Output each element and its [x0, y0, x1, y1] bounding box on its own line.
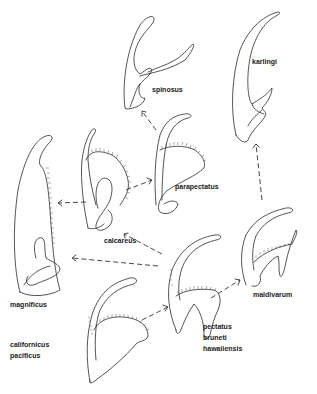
- label-maldivarum: maldivarum: [253, 289, 292, 300]
- label-parapectatus: parapectatus: [175, 181, 219, 192]
- label-californicus: californicus: [10, 339, 49, 350]
- magnificus-drawing: [14, 135, 60, 295]
- spinosus-drawing: [124, 17, 194, 109]
- arrows: [58, 111, 262, 320]
- arrow-pectatus-to-magnificus: [72, 258, 158, 266]
- arrow-maldivarum-to-karlingi: [256, 144, 262, 200]
- label-pacificus: pacificus: [10, 350, 49, 361]
- californicus-pacificus-drawing: [87, 278, 149, 383]
- arrowhead-icon: [235, 279, 240, 285]
- arrow-calcareus-to-parapectatus: [126, 180, 152, 190]
- label-pectatus: pectatus: [203, 321, 242, 332]
- maldivarum-drawing: [242, 208, 297, 287]
- label-calcareus: calcareus: [104, 235, 136, 246]
- karlingi-drawing: [233, 12, 280, 142]
- calcareus-drawing: [81, 129, 131, 230]
- arrow-californicus-to-pectatus: [142, 307, 168, 320]
- label-bruneti: bruneti: [203, 332, 242, 343]
- label-pectatus-group: pectatus bruneti hawaiiensis: [203, 321, 242, 354]
- label-spinosus: spinosus: [152, 84, 183, 95]
- arrow-calcareus-to-magnificus: [58, 202, 86, 203]
- label-magnificus: magnificus: [10, 299, 47, 310]
- parapectatus-drawing: [155, 114, 206, 214]
- label-hawaiiensis: hawaiiensis: [203, 343, 242, 354]
- arrow-parapectatus-to-spinosus: [142, 111, 156, 130]
- label-karlingi: karlingi: [252, 56, 277, 67]
- label-californicus-group: californicus pacificus: [10, 339, 49, 361]
